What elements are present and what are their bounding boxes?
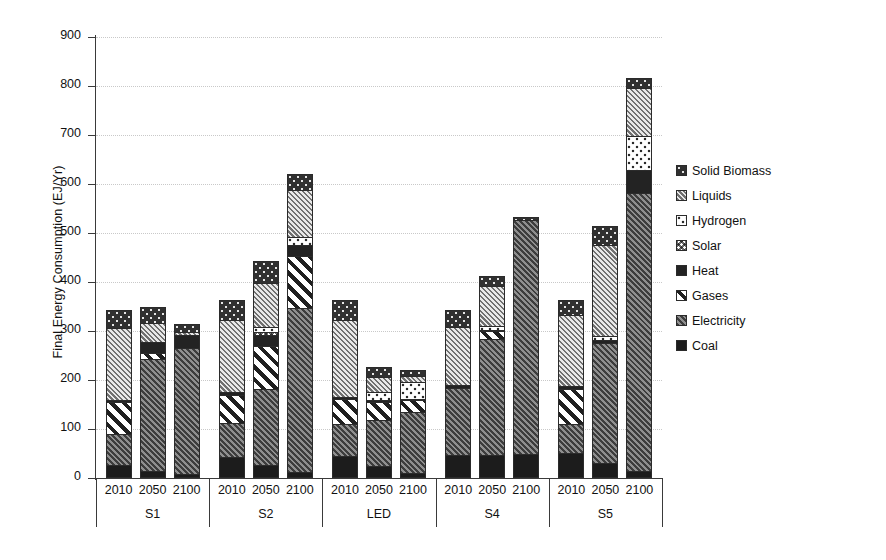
gridline (96, 233, 662, 234)
bar-segment-heat (141, 343, 165, 354)
bar-s4-2010[interactable] (445, 310, 471, 478)
bar-segment-liquids (367, 378, 391, 392)
x-axis-group-label-s5: S5 (549, 507, 662, 521)
y-axis-label: 0 (33, 469, 81, 483)
y-axis-title: Final Energy Consumption (EJ/Yr) (51, 112, 65, 412)
bar-segment-coal (220, 458, 244, 477)
plot-area (96, 37, 662, 478)
bar-segment-coal (288, 473, 312, 477)
bar-segment-electricity (593, 344, 617, 464)
bar-led-2100[interactable] (400, 370, 426, 478)
gridline (96, 282, 662, 283)
bar-s2-2010[interactable] (219, 300, 245, 478)
bar-segment-hydrogen (367, 393, 391, 401)
bar-segment-electricity (254, 390, 278, 467)
legend-item-liquids[interactable]: Liquids (676, 183, 881, 208)
bar-segment-electricity (220, 424, 244, 458)
legend-swatch-coal-icon (676, 340, 687, 351)
bar-segment-gases (559, 390, 583, 425)
bar-segment-coal (175, 475, 199, 477)
bar-s4-2050[interactable] (479, 276, 505, 478)
bar-segment-liquids (593, 246, 617, 337)
legend-item-heat[interactable]: Heat (676, 258, 881, 283)
y-axis-label: 900 (33, 28, 81, 42)
bar-segment-solidbiomass (141, 308, 165, 324)
y-axis-tick (88, 184, 96, 185)
legend-item-electricity[interactable]: Electricity (676, 308, 881, 333)
bar-segment-liquids (559, 316, 583, 388)
bar-segment-liquids (446, 328, 470, 386)
legend-label: Electricity (692, 314, 745, 328)
bar-segment-liquids (288, 191, 312, 238)
legend-swatch-gases-icon (676, 290, 687, 301)
bar-segment-electricity (514, 221, 538, 455)
bar-s5-2100[interactable] (626, 78, 652, 478)
bar-s5-2050[interactable] (592, 226, 618, 478)
bar-segment-electricity (627, 194, 651, 472)
y-axis-tick (88, 478, 96, 479)
bar-segment-coal (141, 472, 165, 477)
legend-label: Hydrogen (692, 214, 746, 228)
bar-segment-hydrogen (288, 238, 312, 247)
y-axis-label: 100 (33, 420, 81, 434)
bar-segment-electricity (401, 413, 425, 475)
legend-item-solidbiomass[interactable]: Solid Biomass (676, 158, 881, 183)
bar-segment-solidbiomass (107, 311, 131, 328)
bar-segment-solidbiomass (220, 301, 244, 321)
legend-swatch-electricity-icon (676, 315, 687, 326)
legend-item-coal[interactable]: Coal (676, 333, 881, 358)
bar-segment-gases (367, 403, 391, 421)
legend-swatch-hydrogen-icon (676, 215, 687, 226)
y-axis-tick (88, 429, 96, 430)
bar-segment-solidbiomass (288, 175, 312, 191)
legend-label: Coal (692, 339, 718, 353)
legend-item-gases[interactable]: Gases (676, 283, 881, 308)
group-separator (549, 479, 550, 527)
bar-s1-2010[interactable] (106, 310, 132, 478)
y-axis-tick (88, 135, 96, 136)
bar-segment-electricity (288, 309, 312, 474)
bar-segment-coal (333, 457, 357, 477)
bar-led-2010[interactable] (332, 300, 358, 478)
bar-s2-2050[interactable] (253, 261, 279, 478)
y-axis-tick (88, 86, 96, 87)
bar-s4-2100[interactable] (513, 217, 539, 478)
y-axis-tick (88, 380, 96, 381)
y-axis-tick (88, 331, 96, 332)
bar-segment-gases (107, 403, 131, 434)
bar-segment-coal (367, 467, 391, 477)
x-axis-group-label-s1: S1 (96, 507, 209, 521)
stacked-bar-chart: Final Energy Consumption (EJ/Yr) 0100200… (0, 0, 886, 560)
y-axis-tick (88, 282, 96, 283)
bar-s1-2100[interactable] (174, 324, 200, 478)
bar-segment-coal (446, 456, 470, 477)
bar-s2-2100[interactable] (287, 174, 313, 478)
legend-label: Solar (692, 239, 721, 253)
bar-segment-liquids (401, 377, 425, 384)
bar-segment-electricity (333, 425, 357, 457)
x-axis-labels: 201020502100S1201020502100S2201020502100… (96, 479, 662, 549)
bar-segment-electricity (480, 340, 504, 455)
bar-s1-2050[interactable] (140, 307, 166, 479)
bar-segment-heat (175, 336, 199, 350)
gridline (96, 135, 662, 136)
x-axis-group-label-led: LED (322, 507, 435, 521)
bar-segment-liquids (220, 321, 244, 393)
bar-segment-coal (480, 456, 504, 477)
bar-segment-gases (220, 396, 244, 424)
group-separator (209, 479, 210, 527)
bar-segment-liquids (333, 321, 357, 398)
bar-segment-electricity (175, 349, 199, 475)
bar-segment-coal (514, 455, 538, 477)
legend-swatch-solar-icon (676, 240, 687, 251)
y-axis-tick (88, 37, 96, 38)
y-axis-label: 800 (33, 77, 81, 91)
bar-s5-2010[interactable] (558, 300, 584, 478)
bar-led-2050[interactable] (366, 367, 392, 478)
legend-item-hydrogen[interactable]: Hydrogen (676, 208, 881, 233)
bar-segment-hydrogen (401, 383, 425, 399)
bar-segment-heat (254, 336, 278, 347)
legend-item-solar[interactable]: Solar (676, 233, 881, 258)
gridline (96, 184, 662, 185)
bar-segment-solidbiomass (480, 277, 504, 287)
